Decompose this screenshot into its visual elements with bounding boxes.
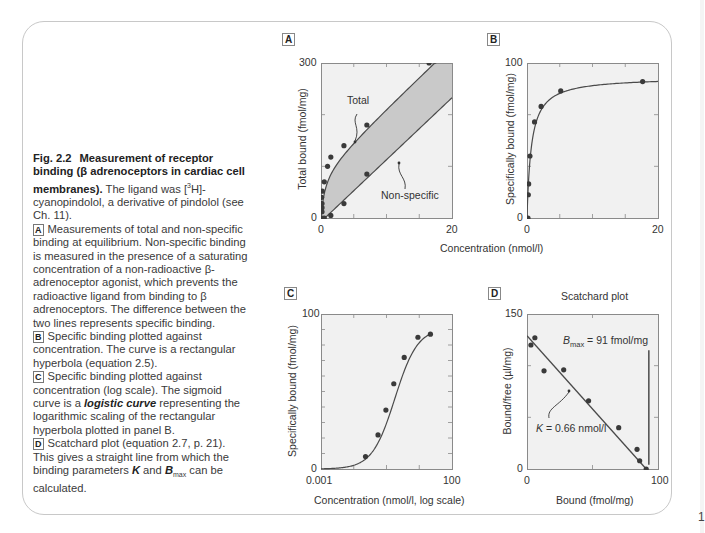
panel-tag-a: A: [282, 33, 295, 46]
panel-b-ytick-max: 100: [505, 56, 523, 68]
panel-ab-xlabel: Concentration (nmol/l): [440, 242, 543, 254]
caption-tag-c: C: [33, 371, 44, 383]
panel-d-ytick-max: 150: [505, 307, 523, 319]
panel-a-nonspecific-label: Non-specific: [381, 189, 439, 201]
figure-number: Fig. 2.2: [33, 152, 72, 164]
figure-caption: Fig. 2.2Measurement of receptor binding …: [33, 152, 248, 495]
panel-d-ytick-min: 0: [517, 462, 523, 474]
panel-c-xtick-max: 100: [443, 474, 461, 486]
panel-a-ylabel: Total bound (fmol/mg): [296, 69, 308, 209]
panel-d-xtick-max: 100: [651, 474, 669, 486]
panel-b-ylabel: Specifically bound (fmol/mg): [504, 59, 516, 219]
panel-d-bmax-annotation: Bmax = 91 fmol/mg: [563, 334, 648, 349]
panel-c-ylabel: Specifically bound (fmol/mg): [286, 311, 298, 471]
panel-d-ylabel: Bound/free (µl/mg): [501, 331, 513, 451]
panel-d-xlabel: Bound (fmol/mg): [556, 494, 634, 506]
panel-b-xtick-max: 20: [652, 223, 664, 235]
panel-c-xlabel: Concentration (nmol/l, log scale): [314, 494, 465, 506]
caption-intro: Fig. 2.2Measurement of receptor binding …: [33, 152, 248, 223]
panel-a-ytick-min: 0: [311, 211, 317, 223]
panel-b-xtick-min: 0: [524, 223, 530, 235]
panel-c-plot: [321, 314, 453, 470]
caption-tag-a: A: [33, 224, 44, 236]
panel-c-ytick-min: 0: [311, 462, 317, 474]
panel-a-ytick-max: 300: [299, 56, 317, 68]
caption-panel-b: BSpecific binding plotted against concen…: [33, 330, 248, 370]
panel-d-xtick-min: 0: [524, 474, 530, 486]
panel-tag-b: B: [487, 33, 500, 46]
panel-c-ytick-max: 100: [302, 307, 320, 319]
caption-panel-c: CSpecific binding plotted against concen…: [33, 370, 248, 437]
page-edge-strip: [700, 0, 704, 533]
caption-panel-a: AMeasurements of total and non-specific …: [33, 223, 248, 330]
panel-a-total-label: Total: [347, 94, 369, 106]
panel-d-title: Scatchard plot: [561, 290, 628, 302]
panel-b-ytick-min: 0: [517, 211, 523, 223]
caption-tag-d: D: [33, 438, 44, 450]
panel-tag-d: D: [488, 287, 501, 300]
page-edge-character: 1: [698, 510, 705, 524]
panel-d-k-annotation: K = 0.66 nmol/l: [536, 422, 606, 434]
panel-c-xtick-min: 0.001: [306, 474, 332, 486]
panel-b-plot: [527, 63, 659, 219]
panel-a-xtick-max: 20: [446, 223, 458, 235]
caption-panel-d: DScatchard plot (equation 2.7, p. 21). T…: [33, 437, 248, 495]
panel-tag-c: C: [284, 287, 297, 300]
caption-tag-b: B: [33, 331, 44, 343]
panel-a-xtick-min: 0: [318, 223, 324, 235]
